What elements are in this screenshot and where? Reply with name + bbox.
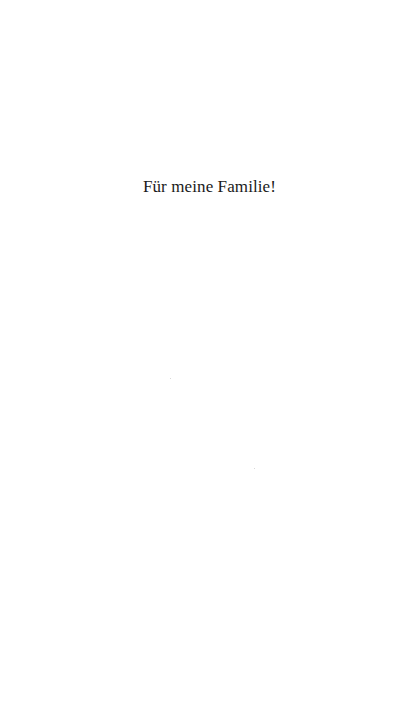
scan-artifact: [254, 468, 255, 469]
scan-artifact: [170, 378, 171, 379]
dedication-text: Für meine Familie!: [0, 176, 419, 198]
book-page: Für meine Familie!: [0, 0, 419, 719]
